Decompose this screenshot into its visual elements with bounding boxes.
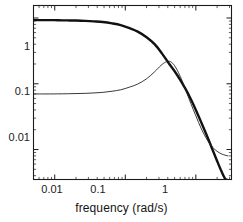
x-axis-title: frequency (rad/s) bbox=[0, 201, 243, 215]
series-line-thick-curve bbox=[34, 20, 228, 180]
y-tick-label: 0.1 bbox=[1, 86, 30, 97]
axes-border bbox=[34, 6, 232, 180]
x-tick-label: 1 bbox=[148, 184, 182, 195]
plot-frame bbox=[34, 6, 232, 180]
x-tick-label: 0.1 bbox=[79, 184, 117, 195]
chart-figure: 1 0.1 0.01 0.01 0.1 1 frequency (rad/s) bbox=[0, 0, 243, 222]
y-tick-label: 0.01 bbox=[0, 132, 30, 143]
y-tick-label: 1 bbox=[6, 41, 30, 52]
series-line-thin-curve bbox=[34, 61, 228, 156]
axis-ticks bbox=[34, 6, 232, 180]
x-tick-label: 0.01 bbox=[32, 184, 72, 195]
data-curves bbox=[34, 20, 228, 180]
